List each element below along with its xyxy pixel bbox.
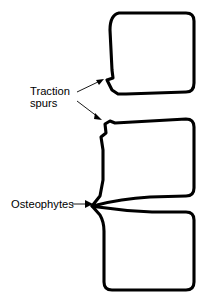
lower-vertebral-body-outline	[92, 206, 194, 290]
middle-vertebral-body-outline	[92, 119, 194, 206]
figure-root: Traction spurs Osteophytes	[0, 0, 213, 306]
traction-spurs-label-line2: spurs	[30, 97, 58, 109]
traction-spur-upper-leader-line	[77, 81, 100, 92]
osteophytes-label: Osteophytes	[11, 198, 74, 210]
upper-vertebral-body-outline	[107, 13, 194, 94]
vertebrae-diagram: Traction spurs Osteophytes	[0, 0, 213, 306]
traction-spurs-label-line1: Traction	[30, 85, 70, 97]
traction-spur-lower-arrowhead	[94, 113, 102, 120]
